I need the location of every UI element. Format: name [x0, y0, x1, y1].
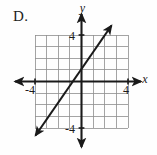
y-axis-positive-tick-label: 4	[69, 29, 75, 43]
y-axis-negative-tick-label: -4	[65, 122, 75, 136]
x-axis-negative-tick-label: -4	[25, 83, 35, 97]
answer-choice-graph-panel: D.	[0, 0, 157, 155]
x-axis-label: x	[141, 72, 148, 86]
coordinate-plane-graphic: x y -4 4 4 -4	[0, 0, 157, 155]
x-axis-positive-tick-label: 4	[123, 83, 129, 97]
y-axis-label: y	[79, 1, 86, 15]
